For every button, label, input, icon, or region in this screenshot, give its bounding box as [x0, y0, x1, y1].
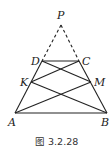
label-D: D: [30, 55, 40, 68]
label-K: K: [19, 76, 29, 89]
label-B: B: [100, 116, 109, 129]
figure-caption: 图 3.2.28: [35, 136, 78, 147]
label-C: C: [82, 55, 91, 68]
label-A: A: [7, 116, 16, 129]
label-P: P: [56, 9, 65, 22]
dashed-segment-PD: [42, 25, 61, 61]
trapezoid-diagram: P D C K M A B 图 3.2.28: [0, 0, 112, 154]
dashed-segment-PC: [61, 25, 79, 61]
label-M: M: [93, 76, 106, 89]
